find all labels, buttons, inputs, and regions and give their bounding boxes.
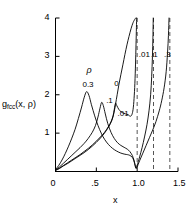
data-curve	[56, 18, 170, 170]
data-curves-group	[56, 18, 170, 170]
figure-container: gfcc(x, ρ) x 0.51.01.5 1234 ρ0.3.1.010.0…	[0, 0, 191, 213]
x-axis-title: x	[113, 196, 118, 205]
x-tick-label: 1.0	[132, 179, 145, 188]
curve-label-p01: .01	[139, 51, 150, 59]
y-tick-label: 2	[45, 90, 50, 99]
y-tick-label: 1	[45, 128, 50, 137]
x-tick-label: 0	[51, 179, 56, 188]
curve-label-p1: .1	[106, 97, 113, 105]
x-tick-label: 1.5	[173, 179, 186, 188]
y-axis-title: gfcc(x, ρ)	[2, 99, 36, 110]
y-axis-title-args: (x, ρ)	[15, 99, 36, 109]
curve-label-p01: .01	[118, 110, 129, 118]
y-tick-label: 4	[45, 13, 50, 22]
axis-group	[55, 18, 178, 172]
x-tick-label: .5	[91, 179, 99, 188]
curve-label-p1: .1	[151, 51, 158, 59]
curve-label-0: 0	[114, 80, 118, 88]
curve-label-p3: .3	[164, 51, 171, 59]
curve-label-0p3: 0.3	[82, 81, 93, 89]
rho-legend-symbol: ρ	[87, 66, 92, 75]
y-tick-label: 3	[45, 51, 50, 60]
data-curve	[56, 18, 154, 170]
